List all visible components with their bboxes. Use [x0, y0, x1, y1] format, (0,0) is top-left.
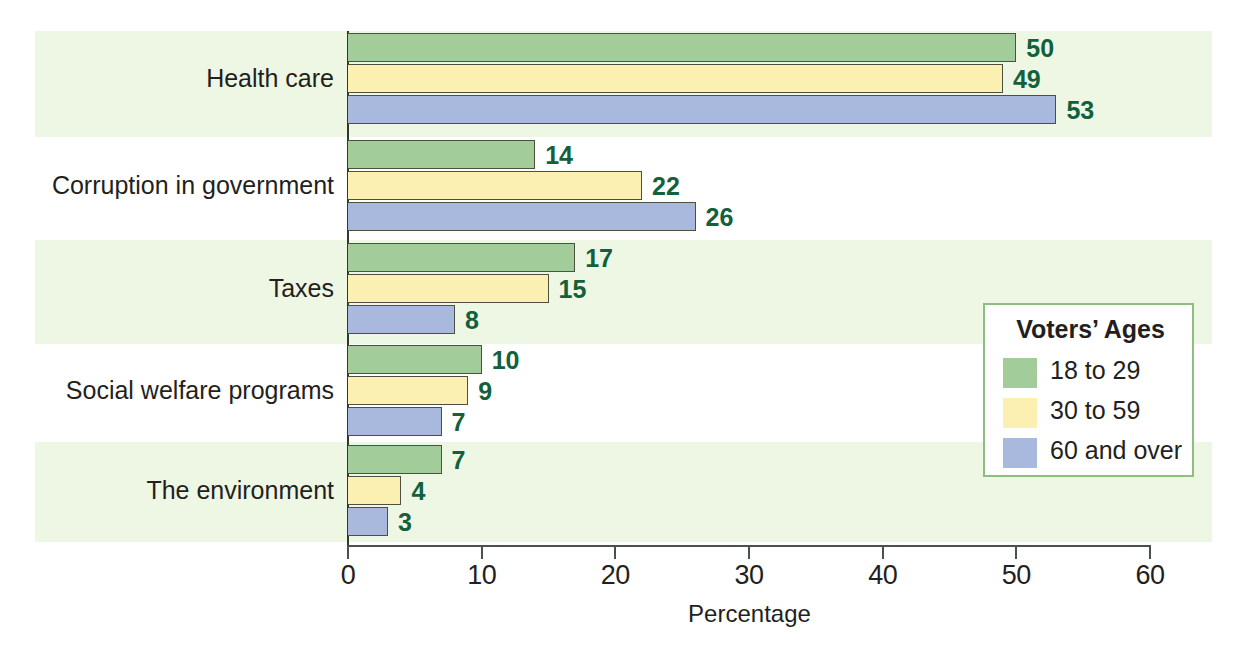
legend-label: 18 to 29 — [1050, 356, 1140, 385]
bar — [348, 171, 642, 200]
x-axis-tick-label: 20 — [585, 560, 645, 591]
bar-value-label: 4 — [411, 479, 425, 504]
bar-value-label: 26 — [706, 205, 734, 230]
bar-value-label: 53 — [1066, 98, 1094, 123]
bar — [348, 95, 1056, 124]
bar — [348, 202, 696, 231]
bar — [348, 243, 575, 272]
bar-value-label: 17 — [585, 246, 613, 271]
bar-value-label: 7 — [452, 448, 466, 473]
bar — [348, 345, 482, 374]
x-axis-tick-label: 30 — [719, 560, 779, 591]
bar-value-label: 8 — [465, 308, 479, 333]
x-axis-tick — [1015, 545, 1017, 559]
category-label: Health care — [206, 66, 334, 91]
x-axis-tick — [614, 545, 616, 559]
x-axis-tick — [882, 545, 884, 559]
bar — [348, 476, 401, 505]
x-axis-tick-label: 50 — [986, 560, 1046, 591]
bar-value-label: 50 — [1026, 36, 1054, 61]
category-label: Taxes — [269, 276, 334, 301]
bar — [348, 445, 442, 474]
bar-value-label: 15 — [559, 277, 587, 302]
bar — [348, 507, 388, 536]
bar-value-label: 22 — [652, 174, 680, 199]
x-axis-tick — [748, 545, 750, 559]
bar-value-label: 7 — [452, 410, 466, 435]
bar-value-label: 49 — [1013, 67, 1041, 92]
x-axis-tick — [1149, 545, 1151, 559]
bar-chart: 0102030405060 Percentage Health careCorr… — [0, 0, 1243, 650]
bar — [348, 376, 468, 405]
category-label: Social welfare programs — [66, 378, 334, 403]
category-label: The environment — [146, 478, 334, 503]
x-axis-tick-label: 10 — [452, 560, 512, 591]
x-axis-tick — [481, 545, 483, 559]
x-axis-tick-label: 60 — [1120, 560, 1180, 591]
x-axis-tick-label: 40 — [853, 560, 913, 591]
legend-swatch-icon — [1003, 398, 1037, 428]
bar-value-label: 14 — [545, 143, 573, 168]
category-label: Corruption in government — [52, 173, 334, 198]
bar — [348, 407, 442, 436]
legend-swatch-icon — [1003, 358, 1037, 388]
bar — [348, 274, 549, 303]
legend-label: 60 and over — [1050, 436, 1182, 465]
bar-value-label: 9 — [478, 379, 492, 404]
x-axis-tick-label: 0 — [318, 560, 378, 591]
legend-label: 30 to 59 — [1050, 396, 1140, 425]
bar-value-label: 10 — [492, 348, 520, 373]
legend-swatch-icon — [1003, 438, 1037, 468]
legend: Voters’ Ages 18 to 2930 to 5960 and over — [983, 303, 1194, 477]
bar — [348, 140, 535, 169]
bar — [348, 64, 1003, 93]
x-axis-title: Percentage — [348, 600, 1151, 628]
bar — [348, 33, 1016, 62]
x-axis-tick — [347, 545, 349, 559]
bar — [348, 305, 455, 334]
bar-value-label: 3 — [398, 510, 412, 535]
legend-title: Voters’ Ages — [985, 315, 1196, 344]
